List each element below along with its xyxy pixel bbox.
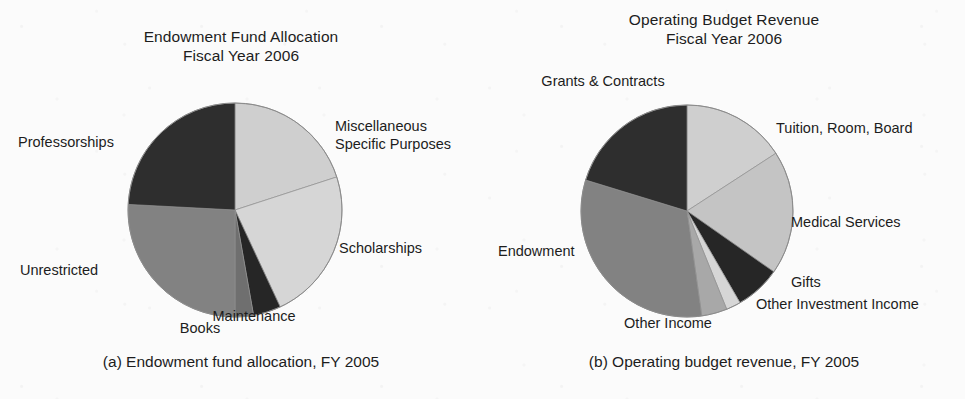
pie-slices-endowment [127,102,341,316]
chart-caption-operating-budget: (b) Operating budget revenue, FY 2005 [483,352,965,371]
endowment-label-5: Maintenance [212,308,295,326]
chart-caption-endowment: (a) Endowment fund allocation, FY 2005 [0,352,482,371]
pie-slice [128,204,235,317]
pie-slices-operating-budget [580,104,792,316]
operating-budget-label-2: Medical Services [791,214,901,232]
chart-panel-endowment: Endowment Fund Allocation Fiscal Year 20… [0,0,482,399]
pie-slice [128,103,235,210]
operating-budget-label-0: Grants & Contracts [541,73,664,91]
operating-budget-label-1: Tuition, Room, Board [776,120,912,138]
endowment-label-2: Scholarships [339,240,422,258]
operating-budget-label-3: Gifts [791,274,821,292]
figure-page: Endowment Fund Allocation Fiscal Year 20… [0,0,965,399]
pie-chart-operating-budget [580,104,792,316]
endowment-label-0: Miscellaneous Specific Purposes [335,118,451,153]
chart-title-operating-budget: Operating Budget Revenue Fiscal Year 200… [483,10,965,48]
chart-title-endowment: Endowment Fund Allocation Fiscal Year 20… [0,27,482,65]
operating-budget-label-4: Other Investment Income [756,296,919,314]
pie-chart-endowment [127,102,341,316]
chart-panel-operating-budget: Operating Budget Revenue Fiscal Year 200… [483,0,965,399]
operating-budget-label-6: Other Income [624,315,712,333]
